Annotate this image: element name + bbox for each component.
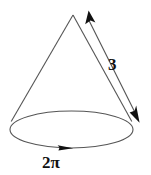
cone-diagram-svg: 3 2π [0,0,151,175]
cone-right-edge [73,15,132,122]
slant-height-label: 3 [108,55,117,74]
cone-left-edge [11,15,73,122]
base-circumference-label: 2π [42,153,61,172]
cone-base-ellipse [10,111,133,148]
circumference-arrow-head-icon [58,145,74,150]
cone-figure: 3 2π [0,0,151,175]
